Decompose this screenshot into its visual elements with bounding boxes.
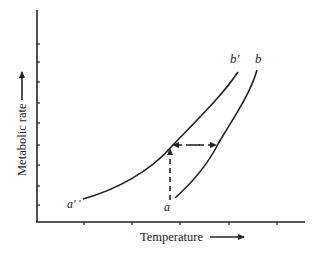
- diagram-canvas: a' a b' b Temperature Metabolic rate: [0, 0, 321, 257]
- label-a: a: [164, 200, 170, 214]
- label-b-prime: b': [230, 51, 240, 66]
- label-a-prime: a': [67, 197, 76, 211]
- y-axis-label: Metabolic rate: [15, 103, 29, 176]
- label-b: b: [255, 51, 262, 66]
- metabolic-rate-diagram: a' a b' b Temperature Metabolic rate: [0, 0, 321, 257]
- x-axis-label: Temperature: [140, 230, 203, 244]
- curve-a-prime-b-prime: [83, 72, 238, 199]
- curve-a-b: [175, 70, 257, 198]
